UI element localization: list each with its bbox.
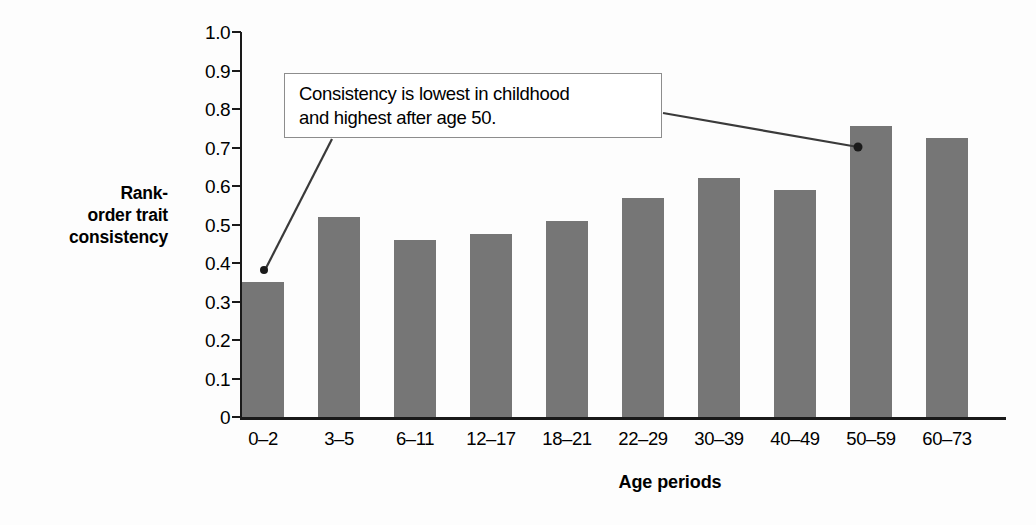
y-axis-tick-label: 0.6 [176,177,230,196]
x-axis-tick-label: 60–73 [909,428,985,450]
x-axis-tick-label: 6–11 [377,428,453,450]
y-axis-tick-label: 0.1 [176,370,230,389]
x-axis-line [240,417,1006,420]
y-axis-tick-label: 0 [176,408,230,427]
x-axis-tick-label: 40–49 [757,428,833,450]
y-axis-tick-label: 0.3 [176,293,230,312]
bar-18-21 [546,221,588,417]
x-axis-tick-label: 3–5 [301,428,377,450]
bar-3-5 [318,217,360,417]
y-axis-tick-label: 0.4 [176,254,230,273]
bar-0-2 [242,282,284,417]
x-axis-tick-label: 0–2 [225,428,301,450]
y-axis-tick-labels: 1.00.90.80.70.60.50.40.30.20.10 [176,20,230,430]
y-axis-title-line-3: consistency [8,226,168,248]
y-axis-tick-label: 0.8 [176,100,230,119]
y-axis-title: Rank- order trait consistency [8,182,168,248]
x-axis-tick-label: 18–21 [529,428,605,450]
bar-30-39 [698,178,740,417]
x-axis-tick-label: 50–59 [833,428,909,450]
y-axis-tick-label: 0.5 [176,216,230,235]
x-axis-tick-label: 12–17 [453,428,529,450]
y-axis-tick-label: 0.2 [176,331,230,350]
x-axis-tick-label: 30–39 [681,428,757,450]
x-axis-tick-label: 22–29 [605,428,681,450]
y-axis-tick-label: 1.0 [176,23,230,42]
bar-50-59 [850,126,892,417]
bar-12-17 [470,234,512,417]
x-axis-title: Age periods [480,472,860,493]
annotation-callout-box: Consistency is lowest in childhood and h… [284,73,662,138]
y-axis-tick-label: 0.9 [176,62,230,81]
y-axis-title-line-1: Rank- [8,182,168,204]
y-axis-tick-label: 0.7 [176,139,230,158]
bar-60-73 [926,138,968,417]
bar-6-11 [394,240,436,417]
annotation-text: Consistency is lowest in childhood and h… [299,82,649,130]
y-axis-title-line-2: order trait [8,204,168,226]
x-axis-tick-labels: 0–23–56–1112–1718–2122–2930–3940–4950–59… [242,428,1006,454]
bar-chart-figure: Rank- order trait consistency 1.00.90.80… [0,0,1036,525]
bar-22-29 [622,198,664,417]
bar-40-49 [774,190,816,417]
